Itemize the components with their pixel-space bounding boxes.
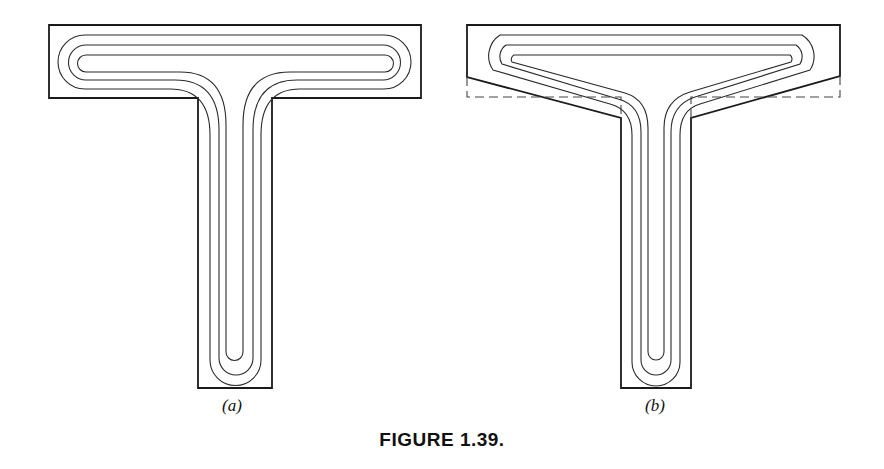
panel-b-bar-middle <box>500 45 802 375</box>
panel-b-label: (b) <box>645 396 665 416</box>
panel-b-original-flange-outline <box>467 76 840 118</box>
panel-a-bar-outer <box>58 35 411 386</box>
figure-caption: FIGURE 1.39. <box>0 429 884 451</box>
panel-a-bar-middle <box>69 45 401 375</box>
panel-a-label: (a) <box>222 396 242 416</box>
panel-b-bar-outer <box>489 35 814 386</box>
panel-a-bar-inner <box>78 55 394 361</box>
panel-a-drawing <box>49 25 421 388</box>
panel-b-section-outline <box>467 25 840 388</box>
figure-canvas <box>0 0 884 469</box>
panel-b-drawing <box>467 25 840 388</box>
